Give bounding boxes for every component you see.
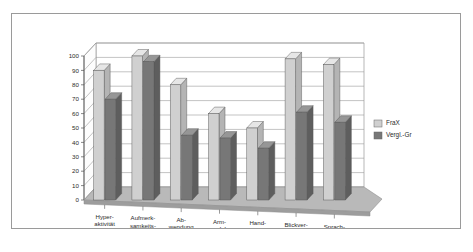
legend-label: Vergl.-Gr [386, 131, 412, 139]
bar-side [345, 116, 351, 200]
bar-face [247, 128, 257, 200]
bar-face [209, 114, 220, 200]
bar [143, 55, 160, 200]
category-label-line: Blickver- [284, 221, 307, 228]
bar [220, 132, 237, 200]
category-label-line: beißen [248, 227, 267, 228]
bar [182, 129, 199, 200]
category-label: Blickver-meidung [284, 221, 307, 228]
bar-face [323, 65, 334, 200]
bar-face [297, 112, 308, 200]
category-label: Hand-beißen [248, 219, 267, 228]
y-axis-tick-labels: 0102030405060708090100 [69, 52, 80, 203]
bar-face [220, 138, 231, 200]
y-tick-label: 10 [72, 182, 79, 189]
category-label-line: Arm- [213, 218, 226, 225]
bar-side [154, 55, 160, 200]
bar-side [192, 129, 198, 200]
bar-face [335, 122, 346, 200]
category-label: Arm-wedeln [209, 218, 229, 228]
category-label-line: wendung [168, 223, 194, 228]
y-tick-label: 0 [76, 196, 80, 203]
chart-figure: 0102030405060708090100Hyper-aktivitätAuf… [0, 0, 473, 252]
chart-border-frame: 0102030405060708090100Hyper-aktivitätAuf… [11, 13, 461, 229]
y-tick-label: 40 [72, 139, 79, 146]
category-label-line: Sprach- [324, 223, 345, 228]
bar-side [116, 93, 122, 200]
legend-item: FraX [374, 119, 401, 127]
bar-face [258, 148, 269, 200]
y-tick-label: 80 [72, 81, 79, 88]
bar [258, 142, 275, 200]
bar-face [285, 59, 296, 200]
category-label: Sprach-auffällig-keit [323, 223, 346, 228]
bar-side [231, 132, 237, 200]
category-label-line: aktivität [94, 220, 115, 227]
legend-item: Vergl.-Gr [374, 131, 412, 139]
category-label-line: samkeits- [130, 222, 156, 228]
bar-side [307, 106, 313, 200]
bar-face [132, 56, 143, 200]
category-label: Hyper-aktivität [94, 213, 115, 227]
y-tick-label: 100 [69, 52, 80, 59]
category-label-line: Hand- [249, 219, 266, 226]
category-label-line: Aufmerk- [131, 214, 156, 221]
category-label-line: Hyper- [95, 213, 113, 220]
chart-legend: FraXVergl.-Gr [374, 119, 412, 139]
legend-swatch [374, 132, 382, 139]
y-tick-label: 60 [72, 110, 79, 117]
bar-face [143, 62, 154, 200]
y-tick-label: 20 [72, 167, 79, 174]
y-tick-label: 50 [72, 124, 79, 131]
y-tick-label: 30 [72, 153, 79, 160]
bar-side [269, 142, 275, 200]
category-label-line: Ab- [176, 216, 185, 223]
y-tick-label: 70 [72, 95, 79, 102]
bar-face [182, 135, 193, 200]
bar [335, 116, 352, 200]
bar-chart-3d: 0102030405060708090100Hyper-aktivitätAuf… [12, 14, 460, 228]
category-label: Ab-wendung [168, 216, 194, 228]
y-tick-label: 90 [72, 67, 79, 74]
bar-group [132, 50, 160, 211]
bar [105, 93, 122, 200]
category-label: Aufmerk-samkeits-probleme [130, 214, 156, 228]
bar [297, 106, 314, 200]
bar-face [105, 99, 116, 200]
category-label-line: wedeln [209, 225, 229, 228]
legend-label: FraX [386, 119, 401, 126]
bar-face [94, 70, 105, 200]
bar-face [170, 85, 181, 200]
category-axis-labels: Hyper-aktivitätAufmerk-samkeits-probleme… [94, 213, 346, 228]
legend-swatch [374, 120, 382, 127]
